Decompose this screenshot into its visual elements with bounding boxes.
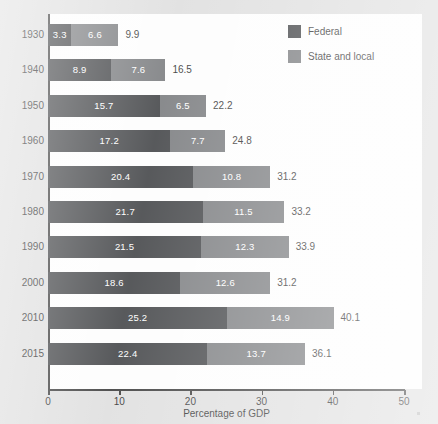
y-axis-category-label: 2010 — [0, 307, 44, 329]
bar-segment-federal: 8.9 — [48, 59, 111, 81]
x-axis-tick — [190, 390, 192, 395]
y-axis-category-label: 2015 — [0, 343, 44, 365]
x-axis-tick-label: 40 — [313, 396, 353, 407]
x-axis-tick — [262, 390, 264, 395]
bar-total-label: 22.2 — [213, 95, 232, 117]
scan-speck — [417, 412, 420, 415]
bar-total-label: 31.2 — [277, 166, 296, 188]
bar-segment-value-label: 18.6 — [48, 272, 180, 294]
bar-row: 19408.97.616.5 — [48, 59, 165, 81]
bar-row: 195015.76.522.2 — [48, 95, 206, 117]
bar-total-label: 24.8 — [232, 130, 251, 152]
bar-segment-state-and-local: 11.5 — [203, 201, 285, 223]
bar-segment-state-and-local: 6.6 — [71, 24, 118, 46]
x-axis-tick-label: 50 — [384, 396, 424, 407]
x-axis-tick-label: 30 — [242, 396, 282, 407]
y-axis-category-label: 1960 — [0, 130, 44, 152]
bar-row: 199021.512.333.9 — [48, 236, 289, 258]
bar-segment-value-label: 15.7 — [48, 95, 160, 117]
bar-segment-value-label: 10.8 — [193, 166, 270, 188]
bar-segment-state-and-local: 14.9 — [227, 307, 333, 329]
x-axis-tick-label: 10 — [99, 396, 139, 407]
chart-legend: FederalState and local — [288, 22, 374, 72]
x-axis-tick-label: 0 — [28, 396, 68, 407]
bar-row: 197020.410.831.2 — [48, 166, 270, 188]
bar-segment-value-label: 22.4 — [48, 343, 207, 365]
bar-segment-value-label: 25.2 — [48, 307, 227, 329]
bar-total-label: 33.9 — [296, 236, 315, 258]
x-axis-tick — [119, 390, 121, 395]
bar-segment-value-label: 21.5 — [48, 236, 201, 258]
bar-total-label: 36.1 — [312, 343, 331, 365]
bar-segment-federal: 15.7 — [48, 95, 160, 117]
bar-segment-value-label: 11.5 — [203, 201, 285, 223]
bar-segment-value-label: 21.7 — [48, 201, 203, 223]
bar-segment-federal: 17.2 — [48, 130, 170, 152]
x-axis-tick — [333, 390, 335, 395]
legend-item-label: Federal — [308, 26, 342, 37]
bar-segment-value-label: 6.6 — [71, 24, 118, 46]
bar-segment-federal: 21.7 — [48, 201, 203, 223]
bar-segment-value-label: 12.3 — [201, 236, 289, 258]
bar-segment-federal: 25.2 — [48, 307, 227, 329]
y-axis-category-label: 1950 — [0, 95, 44, 117]
legend-item: State and local — [288, 47, 374, 65]
bar-total-label: 40.1 — [341, 307, 360, 329]
bar-segment-value-label: 14.9 — [227, 307, 333, 329]
bar-segment-state-and-local: 13.7 — [207, 343, 305, 365]
x-axis-tick — [404, 390, 406, 395]
bar-segment-federal: 18.6 — [48, 272, 180, 294]
y-axis-category-label: 1940 — [0, 59, 44, 81]
legend-item-label: State and local — [308, 51, 374, 62]
legend-swatch-icon — [288, 50, 301, 63]
y-axis-category-label: 1990 — [0, 236, 44, 258]
bar-row: 198021.711.533.2 — [48, 201, 284, 223]
chart-figure: 19303.36.69.919408.97.616.5195015.76.522… — [0, 0, 438, 424]
bar-segment-value-label: 6.5 — [160, 95, 206, 117]
legend-swatch-icon — [288, 25, 301, 38]
x-axis-tick — [48, 390, 50, 395]
bar-row: 201025.214.940.1 — [48, 307, 334, 329]
bar-total-label: 33.2 — [291, 201, 310, 223]
x-axis-title: Percentage of GDP — [48, 408, 405, 419]
bar-segment-value-label: 7.7 — [170, 130, 225, 152]
y-axis-category-label: 1980 — [0, 201, 44, 223]
bar-segment-value-label: 13.7 — [207, 343, 305, 365]
bar-segment-value-label: 3.3 — [48, 24, 71, 46]
bar-segment-federal: 21.5 — [48, 236, 201, 258]
bar-total-label: 16.5 — [172, 59, 191, 81]
bar-segment-value-label: 20.4 — [48, 166, 193, 188]
bar-segment-value-label: 12.6 — [180, 272, 270, 294]
x-axis-tick-label: 20 — [170, 396, 210, 407]
y-axis-category-label: 2000 — [0, 272, 44, 294]
bar-segment-federal: 3.3 — [48, 24, 71, 46]
bar-total-label: 31.2 — [277, 272, 296, 294]
bar-segment-value-label: 7.6 — [111, 59, 165, 81]
bar-segment-value-label: 17.2 — [48, 130, 170, 152]
bar-segment-state-and-local: 12.3 — [201, 236, 289, 258]
bar-segment-state-and-local: 7.7 — [170, 130, 225, 152]
bar-segment-state-and-local: 12.6 — [180, 272, 270, 294]
bar-segment-value-label: 8.9 — [48, 59, 111, 81]
bar-segment-state-and-local: 7.6 — [111, 59, 165, 81]
bar-row: 201522.413.736.1 — [48, 343, 305, 365]
bar-total-label: 9.9 — [125, 24, 139, 46]
legend-item: Federal — [288, 22, 374, 40]
y-axis-category-label: 1970 — [0, 166, 44, 188]
bar-segment-federal: 22.4 — [48, 343, 207, 365]
bar-row: 196017.27.724.8 — [48, 130, 225, 152]
x-axis-line — [48, 389, 405, 391]
bar-row: 19303.36.69.9 — [48, 24, 118, 46]
bar-row: 200018.612.631.2 — [48, 272, 270, 294]
bar-segment-state-and-local: 6.5 — [160, 95, 206, 117]
bar-segment-state-and-local: 10.8 — [193, 166, 270, 188]
bar-segment-federal: 20.4 — [48, 166, 193, 188]
y-axis-category-label: 1930 — [0, 24, 44, 46]
